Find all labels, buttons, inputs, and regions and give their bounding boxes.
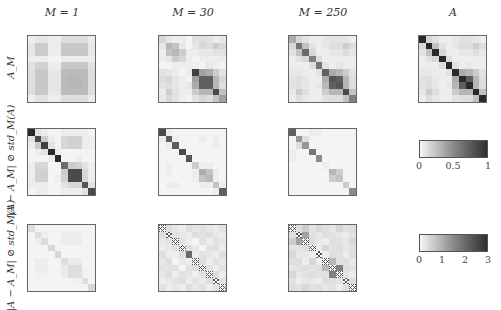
heatmap-cell	[343, 43, 350, 50]
heatmap-cell	[329, 49, 336, 56]
heatmap-cell	[336, 225, 343, 232]
heatmap-cell	[343, 155, 350, 162]
heatmap-cell	[186, 225, 193, 232]
heatmap-cell	[219, 188, 226, 195]
heatmap-cell	[296, 251, 303, 258]
heatmap-cell	[192, 82, 199, 89]
heatmap-cell	[336, 62, 343, 69]
heatmap-cell	[28, 76, 35, 83]
heatmap-cell	[302, 62, 309, 69]
heatmap-cell	[28, 258, 35, 265]
heatmap-cell	[336, 182, 343, 189]
heatmap-cell	[61, 278, 68, 285]
heatmap-cell	[55, 142, 62, 149]
heatmap-cell	[213, 155, 220, 162]
heatmap-cell	[309, 43, 316, 50]
heatmap-cell	[61, 238, 68, 245]
heatmap-cell	[329, 69, 336, 76]
heatmap-cell	[316, 155, 323, 162]
heatmap-cell	[35, 142, 42, 149]
heatmap-cell	[432, 69, 439, 76]
heatmap-cell	[479, 95, 486, 102]
heatmap-cell	[219, 76, 226, 83]
heatmap-cell	[206, 155, 213, 162]
heatmap-cell	[309, 188, 316, 195]
heatmap-cell	[48, 265, 55, 272]
heatmap-cell	[179, 188, 186, 195]
heatmap-cell	[289, 265, 296, 272]
heatmap-cell	[343, 82, 350, 89]
heatmap-cell	[48, 238, 55, 245]
heatmap-cell	[446, 69, 453, 76]
heatmap-cell	[343, 136, 350, 143]
heatmap-r1-m30	[158, 35, 227, 103]
heatmap-cell	[186, 149, 193, 156]
heatmap-cell	[316, 43, 323, 50]
heatmap-cell	[439, 69, 446, 76]
tick-label: 0.5	[445, 160, 460, 171]
heatmap-cell	[68, 188, 75, 195]
heatmap-cell	[206, 182, 213, 189]
heatmap-cell	[35, 149, 42, 156]
heatmap-cell	[446, 49, 453, 56]
heatmap-cell	[289, 136, 296, 143]
heatmap-cell	[219, 265, 226, 272]
heatmap-cell	[322, 56, 329, 63]
heatmap-cell	[309, 62, 316, 69]
heatmap-cell	[166, 162, 173, 169]
heatmap-cell	[329, 82, 336, 89]
heatmap-cell	[192, 155, 199, 162]
heatmap-cell	[426, 82, 433, 89]
heatmap-cell	[302, 36, 309, 43]
heatmap-cell	[199, 89, 206, 96]
heatmap-cell	[336, 82, 343, 89]
heatmap-cell	[61, 265, 68, 272]
heatmap-cell	[28, 49, 35, 56]
heatmap-cell	[35, 258, 42, 265]
heatmap-cell	[41, 245, 48, 252]
heatmap-cell	[28, 284, 35, 291]
heatmap-cell	[41, 129, 48, 136]
heatmap-cell	[219, 136, 226, 143]
heatmap-cell	[426, 95, 433, 102]
heatmap-cell	[213, 89, 220, 96]
heatmap-cell	[336, 284, 343, 291]
heatmap-cell	[322, 89, 329, 96]
heatmap-cell	[206, 245, 213, 252]
heatmap-cell	[206, 95, 213, 102]
heatmap-cell	[166, 155, 173, 162]
tick-label: 3	[485, 254, 491, 265]
heatmap-cell	[199, 76, 206, 83]
heatmap-cell	[302, 278, 309, 285]
heatmap-cell	[296, 76, 303, 83]
heatmap-cell	[88, 162, 95, 169]
heatmap-cell	[296, 62, 303, 69]
heatmap-cell	[41, 169, 48, 176]
heatmap-cell	[28, 89, 35, 96]
heatmap-cell	[88, 232, 95, 239]
heatmap-cell	[179, 36, 186, 43]
heatmap-cell	[199, 56, 206, 63]
heatmap-cell	[309, 49, 316, 56]
heatmap-cell	[432, 62, 439, 69]
heatmap-cell	[302, 162, 309, 169]
heatmap-cell	[309, 169, 316, 176]
heatmap-cell	[172, 271, 179, 278]
heatmap-cell	[322, 149, 329, 156]
heatmap-cell	[41, 69, 48, 76]
heatmap-cell	[61, 271, 68, 278]
heatmap-cell	[329, 149, 336, 156]
heatmap-cell	[55, 251, 62, 258]
heatmap-cell	[459, 43, 466, 50]
heatmap-cell	[289, 49, 296, 56]
heatmap-cell	[349, 62, 356, 69]
heatmap-cell	[322, 278, 329, 285]
heatmap-cell	[213, 258, 220, 265]
heatmap-cell	[172, 245, 179, 252]
heatmap-cell	[61, 76, 68, 83]
heatmap-cell	[452, 82, 459, 89]
heatmap-cell	[466, 62, 473, 69]
heatmap-cell	[41, 188, 48, 195]
heatmap-cell	[329, 284, 336, 291]
heatmap-cell	[88, 225, 95, 232]
